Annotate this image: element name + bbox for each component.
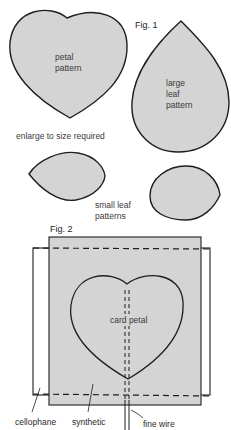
small-leaf-pattern-2-shape [150, 166, 220, 220]
fig2-title: Fig. 2 [50, 224, 73, 234]
cellophane-label: cellophane [15, 417, 56, 427]
pattern-diagram: Fig. 1 petal pattern large leaf pattern … [0, 0, 231, 430]
fine-wire-label: fine wire [143, 419, 175, 429]
small-leaf-label-line1: small leaf [95, 200, 132, 210]
petal-label-line2: pattern [55, 63, 82, 73]
fig1-title: Fig. 1 [135, 20, 158, 30]
petal-label-line1: petal [55, 52, 74, 62]
small-leaf-pattern-1-shape [29, 152, 105, 200]
large-leaf-label-line3: pattern [166, 100, 193, 110]
synthetic-label: synthetic [72, 417, 106, 427]
fine-wire-leader [131, 410, 143, 418]
large-leaf-label-line2: leaf [166, 89, 180, 99]
large-leaf-label-line1: large [166, 78, 185, 88]
card-petal-label: card petal [110, 315, 147, 325]
enlarge-caption: enlarge to size required [16, 131, 105, 141]
small-leaf-label-line2: patterns [95, 211, 126, 221]
